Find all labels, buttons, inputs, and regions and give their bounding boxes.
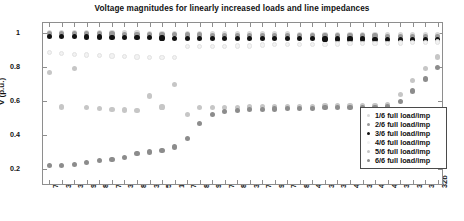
chart-legend: 1/6 full load/imp2/6 full load/imp3/6 fu… [360,107,447,169]
scatter-point [347,105,352,110]
scatter-point [372,41,377,46]
x-axis-tick-mark [175,23,176,27]
scatter-point [322,36,327,41]
x-axis-tick-mark [62,180,63,184]
x-axis-tick-mark [225,23,226,27]
scatter-point [285,42,290,47]
x-axis-tick-mark [375,180,376,184]
x-axis-tick-mark [200,180,201,184]
x-axis-tick-mark [99,180,100,184]
scatter-point [272,42,277,47]
legend-item[interactable]: 3/6 full load/imp [364,129,444,138]
scatter-point [97,34,102,39]
scatter-point [222,109,227,114]
x-axis-tick-mark [150,180,151,184]
scatter-point [84,34,89,39]
x-axis-tick-mark [250,23,251,27]
scatter-point [423,66,428,71]
legend-item[interactable]: 2/6 full load/imp [364,120,444,129]
scatter-point [47,50,52,55]
scatter-point [109,35,114,40]
scatter-point [322,42,327,47]
x-axis-tick-mark [312,23,313,27]
scatter-point [285,106,290,111]
scatter-point [59,34,64,39]
scatter-point [109,107,114,112]
x-axis-tick-mark [124,180,125,184]
scatter-point [84,52,89,57]
scatter-point [97,158,102,163]
x-axis-tick-mark [162,180,163,184]
x-axis-tick-mark [99,23,100,27]
x-axis-tick-mark [112,180,113,184]
legend-item-label: 2/6 full load/imp [375,120,430,129]
y-axis-tick-label: 0.2 [10,164,20,173]
scatter-point [147,55,152,60]
scatter-point [435,65,440,70]
x-axis-tick-mark [350,23,351,27]
scatter-point [185,44,190,49]
scatter-point [197,44,202,49]
x-axis-tick-mark [413,180,414,184]
scatter-point [310,42,315,47]
scatter-point [322,105,327,110]
legend-item[interactable]: 6/6 full load/imp [364,156,444,165]
x-axis-tick-mark [150,23,151,27]
y-axis-tick-mark [43,135,47,136]
scatter-point [47,34,52,39]
x-axis-tick-mark [325,180,326,184]
x-axis-tick-mark [337,23,338,27]
x-axis-tick-mark [212,180,213,184]
scatter-point [197,121,202,126]
x-axis-tick-mark [438,180,439,184]
y-axis-tick-mark [43,169,47,170]
scatter-point [134,108,139,113]
scatter-point [197,105,202,110]
legend-marker-icon [364,123,373,127]
scatter-point [159,35,164,40]
x-axis-tick-mark [237,23,238,27]
scatter-point [72,34,77,39]
scatter-point [423,40,428,45]
scatter-point [297,42,302,47]
legend-item[interactable]: 4/6 full load/imp [364,138,444,147]
scatter-point [285,36,290,41]
scatter-point [97,53,102,58]
scatter-point [235,43,240,48]
scatter-point [122,54,127,59]
scatter-point [297,106,302,111]
scatter-point [134,54,139,59]
x-axis-tick-mark [262,23,263,27]
x-axis-tick-mark [262,180,263,184]
x-axis-tick-mark [137,23,138,27]
scatter-point [260,42,265,47]
x-axis-tick-mark [124,23,125,27]
scatter-point [272,106,277,111]
scatter-point [210,112,215,117]
y-axis-tick-label: 0.4 [10,130,20,139]
x-axis-tick-mark [212,23,213,27]
legend-item[interactable]: 5/6 full load/imp [364,147,444,156]
scatter-point [159,55,164,60]
x-axis-tick-mark [300,180,301,184]
legend-item-label: 4/6 full load/imp [375,138,430,147]
scatter-point [297,36,302,41]
legend-item[interactable]: 1/6 full load/imp [364,111,444,120]
y-axis-tick-mark [43,101,47,102]
scatter-point [398,99,403,104]
scatter-point [72,52,77,57]
x-axis-tick-mark [225,180,226,184]
scatter-point [47,70,52,75]
scatter-point [172,36,177,41]
scatter-point [247,43,252,48]
scatter-point [47,163,52,168]
x-axis-tick-mark [237,180,238,184]
scatter-point [172,55,177,60]
x-axis-tick-mark [200,23,201,27]
scatter-point [97,106,102,111]
legend-marker-icon [364,132,373,136]
x-axis-tick-mark [74,180,75,184]
scatter-point [385,41,390,46]
scatter-point [398,92,403,97]
scatter-point [398,40,403,45]
